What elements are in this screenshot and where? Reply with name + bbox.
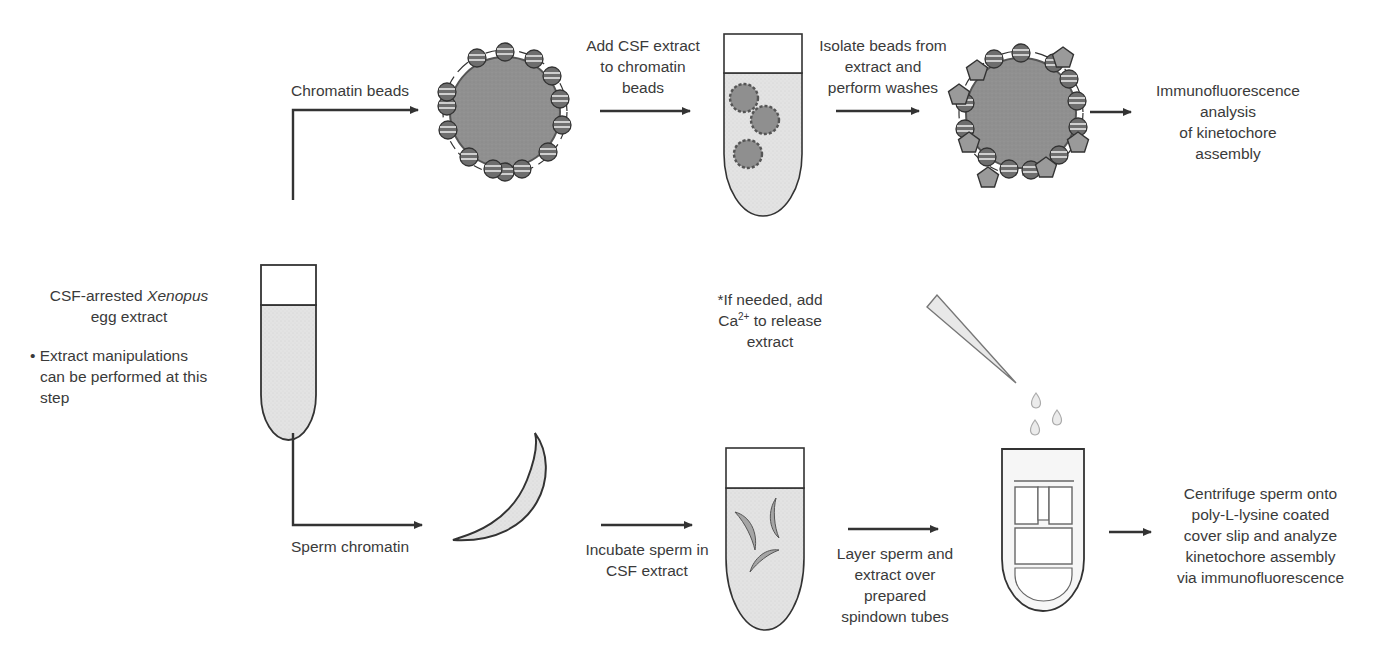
bottom-branch-connector — [293, 433, 422, 525]
kinetochore-bead-icon — [949, 44, 1089, 187]
pipette-tip-icon — [927, 295, 1016, 383]
centrifuge-label: Centrifuge sperm onto poly-L-lysine coat… — [1158, 483, 1363, 588]
isolate-beads-label: Isolate beads from extract and perform w… — [808, 35, 958, 98]
immunofluorescence-label: Immunofluorescence analysis of kinetocho… — [1138, 80, 1318, 164]
chromatin-bead-icon — [438, 43, 571, 181]
chromatin-beads-label: Chromatin beads — [270, 80, 430, 101]
bullet-icon: • — [30, 347, 35, 364]
calcium-droplets-icon — [1031, 393, 1062, 435]
extract-tube-with-beads — [724, 34, 802, 216]
add-extract-label: Add CSF extract to chromatin beads — [568, 35, 718, 98]
spindown-tube-icon — [1002, 449, 1084, 611]
sperm-chromatin-label: Sperm chromatin — [270, 536, 430, 557]
start-note: • Extract manipulations can be performed… — [30, 345, 260, 408]
layer-sperm-label: Layer sperm and extract over prepared sp… — [815, 543, 975, 627]
calcium-note-label: *If needed, add Ca2+ to release extract — [695, 289, 845, 352]
top-branch-connector — [293, 110, 418, 200]
species-name: Xenopus — [147, 287, 208, 304]
start-label: CSF-arrested Xenopus egg extract — [22, 285, 236, 327]
start-extract-tube — [261, 265, 316, 440]
incubate-sperm-label: Incubate sperm in CSF extract — [552, 539, 742, 581]
sperm-chromatin-icon — [453, 433, 546, 540]
